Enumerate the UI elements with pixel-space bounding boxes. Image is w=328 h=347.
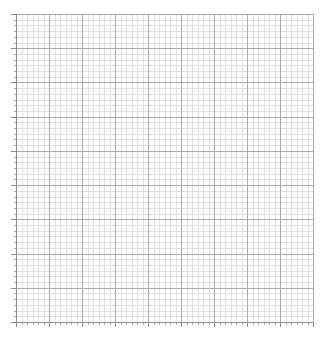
y-axis-ticks — [11, 15, 16, 323]
figure-canvas — [0, 0, 328, 347]
plot-area[interactable] — [0, 0, 328, 347]
